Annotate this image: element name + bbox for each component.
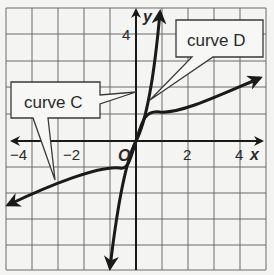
callout-curve-d: curve D xyxy=(150,20,263,100)
x-tick-neg4: −4 xyxy=(10,146,27,163)
y-axis-label: y xyxy=(142,8,153,25)
callout-curve-d-label: curve D xyxy=(187,31,246,50)
x-tick-neg2: −2 xyxy=(63,146,80,163)
x-tick-2: 2 xyxy=(183,146,191,163)
callout-curve-c-label: curve C xyxy=(24,93,83,112)
callout-curve-c: curve C xyxy=(11,82,136,180)
origin-label: O xyxy=(118,147,131,164)
coordinate-graph: curve C curve D −4 −2 2 4 4 O x y xyxy=(0,0,274,275)
y-tick-4: 4 xyxy=(122,26,130,43)
x-tick-4: 4 xyxy=(235,146,243,163)
x-axis-label: x xyxy=(249,146,260,163)
